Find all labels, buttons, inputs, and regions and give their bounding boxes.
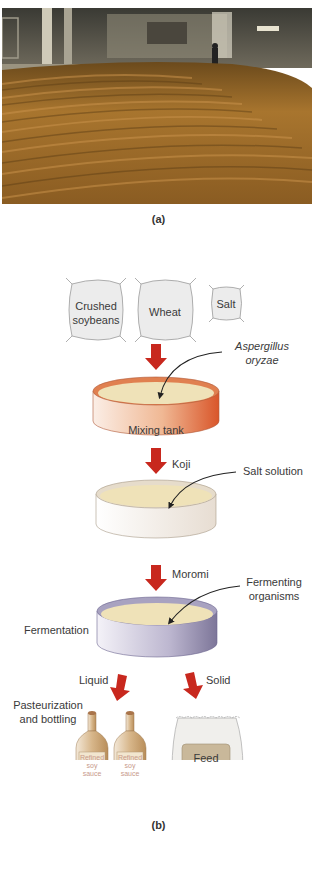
label-line: Aspergillus <box>222 340 302 354</box>
label-line: sauce <box>117 770 143 778</box>
ingredient-wheat: Wheat <box>135 306 195 320</box>
label-line: soy <box>79 762 105 770</box>
arrow-down-icon <box>145 565 167 591</box>
moromi-label: Moromi <box>172 568 209 582</box>
arrow-solid-icon <box>183 672 203 699</box>
label-line: oryzae <box>222 354 302 368</box>
aspergillus-label: Aspergillus oryzae <box>222 340 302 368</box>
label-line: Fermenting <box>238 576 310 590</box>
fermentation-label: Fermentation <box>24 624 89 638</box>
ingredient-salt: Salt <box>208 298 244 312</box>
pasteurization-label: Pasteurization and bottling <box>12 699 84 727</box>
brine-tank <box>96 480 216 538</box>
koji-label: Koji <box>172 458 190 472</box>
solid-label: Solid <box>206 674 230 688</box>
arrow-down-icon <box>145 344 167 370</box>
liquid-label: Liquid <box>79 674 108 688</box>
panel-a-caption: (a) <box>0 213 317 225</box>
salt-solution-label: Salt solution <box>243 465 303 479</box>
koji-room-photo <box>2 8 312 204</box>
soy-sauce-bottle <box>114 711 146 760</box>
label-line: Crushed <box>66 300 126 314</box>
label-line: sauce <box>79 770 105 778</box>
label-line: organisms <box>238 590 310 604</box>
fermentation-tank <box>97 597 217 657</box>
ingredient-soybeans: Crushed soybeans <box>66 300 126 328</box>
feed-label: Feed <box>182 752 230 766</box>
label-line: Pasteurization <box>12 699 84 713</box>
arrow-down-icon <box>145 448 167 474</box>
mixing-tank-label: Mixing tank <box>100 424 212 438</box>
label-line: and bottling <box>12 713 84 727</box>
fermenting-organisms-label: Fermenting organisms <box>238 576 310 604</box>
label-line: Refined <box>79 754 105 762</box>
panel-b-caption: (b) <box>0 819 317 831</box>
bottle-label-1: Refined soy sauce <box>79 754 105 778</box>
bottle-label-2: Refined soy sauce <box>117 754 143 778</box>
process-diagram <box>0 260 317 760</box>
label-line: soybeans <box>66 314 126 328</box>
arrow-liquid-icon <box>110 674 130 701</box>
label-line: Refined <box>117 754 143 762</box>
label-line: soy <box>117 762 143 770</box>
